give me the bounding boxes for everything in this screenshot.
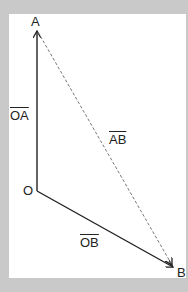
vector-oa-label: OA (10, 109, 29, 122)
vector-ab-label: AB (109, 133, 126, 146)
point-a-label: A (31, 15, 40, 28)
vector-ab (38, 32, 172, 265)
point-b-label: B (177, 266, 186, 279)
vector-ob (37, 191, 173, 267)
point-o-label: O (23, 184, 33, 197)
vector-ob-label: OB (80, 236, 99, 249)
